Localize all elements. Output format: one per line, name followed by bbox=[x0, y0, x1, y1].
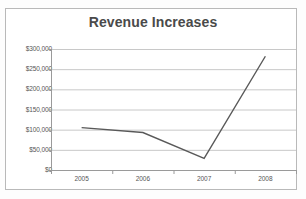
plot-area bbox=[0, 0, 306, 199]
revenue-increases-line-chart: Revenue Increases $0$50,000$100,000$150,… bbox=[0, 0, 306, 199]
series-line-revenue bbox=[82, 56, 266, 158]
y-axis-tick-marks bbox=[48, 50, 51, 171]
data-series-revenue bbox=[82, 56, 266, 158]
